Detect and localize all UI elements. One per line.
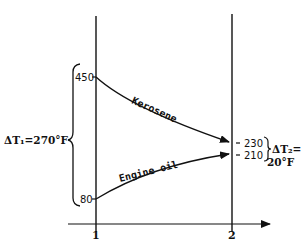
kerosene-outlet-temp: 230 [244,138,263,149]
station-1-label: 1 [92,229,100,242]
engine-oil-inlet-temp: 80 [80,194,93,205]
delta-t2-label-line1: ΔT₂= [272,143,301,155]
delta-t1-label: ΔT₁=270°F [4,134,69,146]
kerosene-label: Kerosene [130,95,178,125]
station-2-label: 2 [228,229,236,242]
delta-t1-brace [68,64,80,206]
heat-exchanger-diagram: 450 80 230 210 Kerosene Engine oil ΔT₁=2… [0,0,306,251]
engine-oil-label: Engine oil [118,159,179,184]
delta-t2-label-line2: 20°F [267,156,295,168]
engine-oil-curve [96,154,229,199]
engine-oil-outlet-temp: 210 [244,150,263,161]
kerosene-inlet-temp: 450 [75,72,94,83]
